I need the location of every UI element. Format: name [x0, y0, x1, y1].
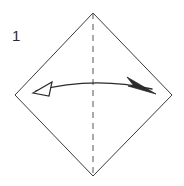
step-number-label: 1	[12, 27, 20, 44]
origami-step-diagram: 1	[0, 0, 184, 186]
diagram-canvas: 1	[0, 0, 184, 186]
